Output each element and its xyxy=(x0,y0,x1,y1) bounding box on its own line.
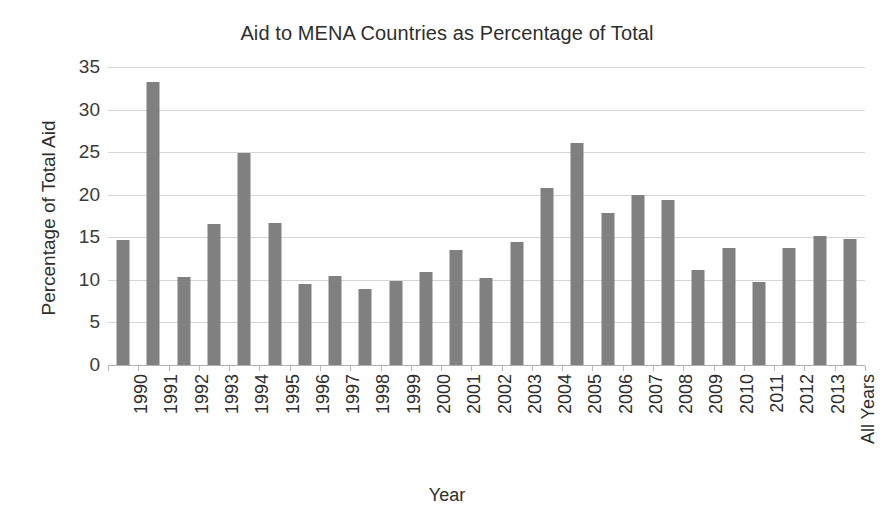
y-axis-tick-label: 30 xyxy=(60,99,100,121)
bar-slot xyxy=(199,67,229,365)
x-axis-tick-mark xyxy=(774,366,775,371)
bar[interactable] xyxy=(238,153,251,365)
bar[interactable] xyxy=(329,276,342,365)
x-axis-tick-label: 2008 xyxy=(676,374,697,414)
x-axis-tick-mark xyxy=(714,366,715,371)
y-axis-tick-label: 15 xyxy=(60,226,100,248)
bar[interactable] xyxy=(601,213,614,365)
x-axis-tick-mark xyxy=(744,366,745,371)
x-axis-tick-label: 1990 xyxy=(131,374,152,414)
x-axis-tick-label: 1999 xyxy=(404,374,425,414)
bar[interactable] xyxy=(389,281,402,365)
x-axis-tick-mark xyxy=(350,366,351,371)
x-axis-tick-mark xyxy=(683,366,684,371)
x-axis-tick-label: 2005 xyxy=(585,374,606,414)
bar-slot xyxy=(320,67,350,365)
x-axis-tick-mark xyxy=(320,366,321,371)
bar[interactable] xyxy=(147,82,160,365)
bar-slot xyxy=(502,67,532,365)
bar-slot xyxy=(441,67,471,365)
bar[interactable] xyxy=(843,239,856,365)
x-axis-tick-label: All Years xyxy=(858,374,879,444)
bar-slot xyxy=(350,67,380,365)
bar[interactable] xyxy=(359,289,372,365)
x-axis-tick-mark xyxy=(138,366,139,371)
x-axis-tick-label: 2002 xyxy=(495,374,516,414)
x-axis-tick-label: 2000 xyxy=(434,374,455,414)
bar-slot xyxy=(714,67,744,365)
bar[interactable] xyxy=(117,240,130,365)
x-axis-title: Year xyxy=(0,485,894,506)
bar-slot xyxy=(683,67,713,365)
bar[interactable] xyxy=(722,248,735,365)
chart-title: Aid to MENA Countries as Percentage of T… xyxy=(0,22,894,45)
y-axis-tick-labels: 05101520253035 xyxy=(55,0,100,521)
x-axis-tick-label: 1994 xyxy=(252,374,273,414)
x-axis-tick-mark xyxy=(835,366,836,371)
y-axis-tick-label: 25 xyxy=(60,141,100,163)
x-axis-tick-mark xyxy=(290,366,291,371)
bar[interactable] xyxy=(177,277,190,365)
bar-slot xyxy=(471,67,501,365)
x-axis-tick-label: 2001 xyxy=(464,374,485,414)
y-axis-tick-label: 10 xyxy=(60,269,100,291)
bar[interactable] xyxy=(753,282,766,365)
bar-slot xyxy=(835,67,865,365)
bar-slot xyxy=(138,67,168,365)
bar[interactable] xyxy=(541,188,554,365)
x-axis-tick-mark xyxy=(199,366,200,371)
bar-slot xyxy=(592,67,622,365)
x-axis-tick-label: 1993 xyxy=(222,374,243,414)
bar[interactable] xyxy=(571,143,584,365)
x-axis-tick-mark xyxy=(229,366,230,371)
y-axis-tick-label: 0 xyxy=(60,354,100,376)
x-axis-tick-mark xyxy=(653,366,654,371)
bar[interactable] xyxy=(510,242,523,365)
bar[interactable] xyxy=(783,248,796,365)
bar[interactable] xyxy=(298,284,311,365)
x-axis-tick-mark xyxy=(108,366,109,371)
x-axis-tick-label: 1998 xyxy=(373,374,394,414)
x-axis-tick-mark xyxy=(623,366,624,371)
bar-slot xyxy=(804,67,834,365)
x-axis-tick-mark xyxy=(441,366,442,371)
x-axis-tick-label: 2009 xyxy=(706,374,727,414)
x-axis-tick-label: 2004 xyxy=(555,374,576,414)
bar-slot xyxy=(653,67,683,365)
bar[interactable] xyxy=(480,278,493,365)
x-axis-tick-label: 1991 xyxy=(161,374,182,414)
x-axis-tick-label: 2012 xyxy=(797,374,818,414)
x-axis-tick-mark xyxy=(169,366,170,371)
bar-slot xyxy=(774,67,804,365)
bar[interactable] xyxy=(662,200,675,365)
x-axis-tick-label: 2007 xyxy=(646,374,667,414)
bar[interactable] xyxy=(268,223,281,365)
bar[interactable] xyxy=(692,270,705,365)
y-axis-tick-label: 5 xyxy=(60,311,100,333)
x-axis-tick-mark xyxy=(562,366,563,371)
x-axis-tick-mark xyxy=(865,366,866,371)
bar[interactable] xyxy=(207,224,220,365)
x-axis-tick-mark xyxy=(259,366,260,371)
x-axis-line xyxy=(108,365,865,366)
x-axis-tick-mark xyxy=(592,366,593,371)
x-axis-tick-label: 2010 xyxy=(737,374,758,414)
bar[interactable] xyxy=(813,236,826,365)
bar-slot xyxy=(290,67,320,365)
bar-slot xyxy=(169,67,199,365)
chart-page: Aid to MENA Countries as Percentage of T… xyxy=(0,0,894,521)
bar-slot xyxy=(411,67,441,365)
bar-slot xyxy=(623,67,653,365)
bar-slot xyxy=(381,67,411,365)
x-axis-tick-label: 2011 xyxy=(767,374,788,413)
bar[interactable] xyxy=(450,250,463,365)
x-axis-tick-mark xyxy=(532,366,533,371)
bar-slot xyxy=(259,67,289,365)
y-axis-tick-label: 20 xyxy=(60,184,100,206)
x-axis-tick-label: 2006 xyxy=(616,374,637,414)
bar-slot xyxy=(108,67,138,365)
bar[interactable] xyxy=(419,272,432,365)
bar-slot xyxy=(532,67,562,365)
bar[interactable] xyxy=(631,195,644,365)
x-axis-tick-label: 2003 xyxy=(525,374,546,414)
